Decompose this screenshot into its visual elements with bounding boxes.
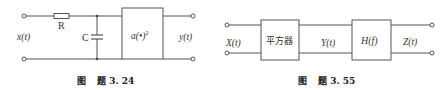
input-terminal-top: [22, 14, 26, 18]
output-terminal-bottom-right: [430, 51, 434, 55]
block-label-text: a(•): [131, 31, 145, 42]
output-terminal-top-right: [430, 23, 434, 27]
caption-right: 题 3. 55: [317, 76, 355, 86]
caption-left: 题 3. 24: [96, 76, 134, 86]
output-terminal-top: [191, 14, 195, 18]
caption-prefix-left: 图: [77, 76, 86, 86]
input-label-x: x(t): [16, 32, 30, 43]
block-label-superscript: 2: [145, 30, 148, 36]
resistor-icon: [54, 14, 69, 19]
output-label-Z: Z(t): [403, 37, 417, 48]
output-label-y: y(t): [178, 32, 192, 43]
capacitor-label: C: [82, 32, 89, 43]
input-terminal-top-right: [225, 23, 229, 27]
diagram-canvas: R C x(t) y(t) a(•)2 图 题 3. 24 X(t) 平方器 Y…: [0, 0, 447, 90]
figure-3-24: [22, 8, 195, 61]
junction-dot-bottom: [96, 58, 99, 61]
middle-label-Y: Y(t): [321, 38, 335, 49]
resistor-label: R: [58, 20, 65, 31]
input-terminal-bottom-right: [225, 51, 229, 55]
squarer-label: 平方器: [266, 35, 293, 46]
input-terminal-bottom: [22, 57, 26, 61]
caption-prefix-right: 图: [298, 76, 307, 86]
junction-dot-top: [96, 15, 99, 18]
output-terminal-bottom: [191, 57, 195, 61]
input-label-X: X(t): [225, 38, 241, 49]
filter-label-H: H(f): [360, 35, 378, 47]
